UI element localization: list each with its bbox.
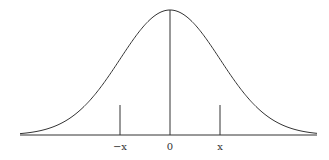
bell-curve-chart (0, 0, 329, 160)
tick-label-pos-x: x (217, 142, 223, 152)
normal-curve (20, 10, 317, 134)
tick-label-neg-x: −x (113, 142, 127, 152)
tick-label-zero: 0 (167, 142, 173, 152)
